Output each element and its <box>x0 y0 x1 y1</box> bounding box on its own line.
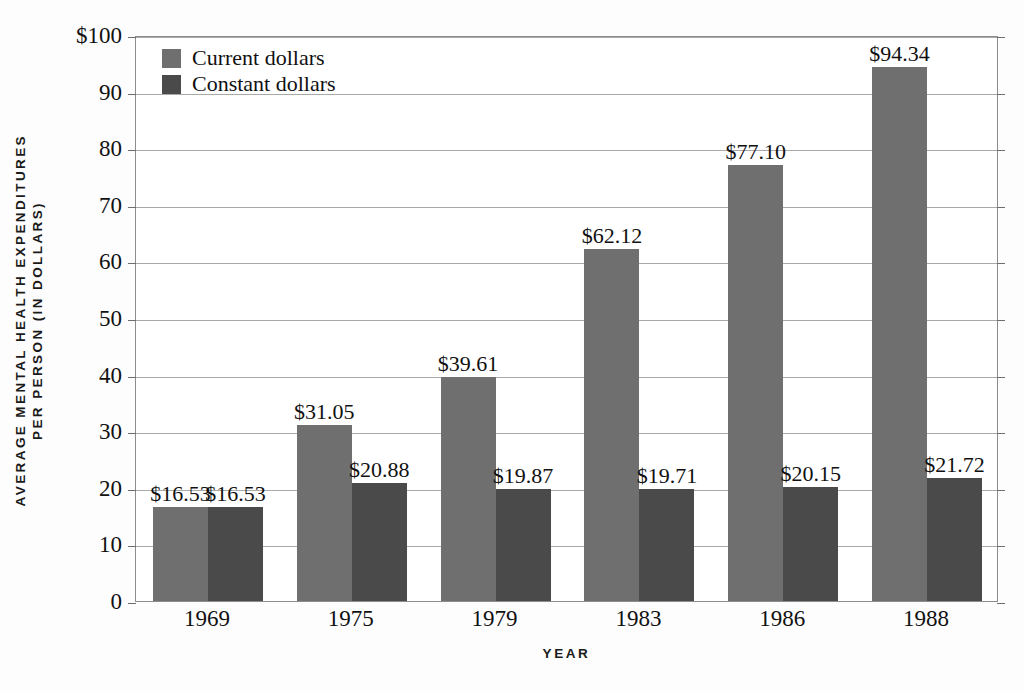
legend: Current dollars Constant dollars <box>158 43 346 101</box>
y-axis-title-line-1: AVERAGE MENTAL HEALTH EXPENDITURES <box>14 134 28 506</box>
axis-tick-mark <box>997 37 1005 38</box>
y-axis-tick-label: 20 <box>99 476 122 502</box>
axis-tick-mark <box>997 94 1005 95</box>
y-axis-tick-labels: 0102030405060708090$100 <box>52 36 130 602</box>
y-axis-tick-label: 80 <box>99 136 122 162</box>
legend-item-current-dollars: Current dollars <box>162 45 336 71</box>
bar-1988-current <box>872 67 927 601</box>
plot-area: $16.53$16.53$31.05$20.88$39.61$19.87$62.… <box>135 36 998 602</box>
x-axis-tick-label: 1986 <box>759 606 805 632</box>
bar-value-label: $16.53 <box>150 481 211 507</box>
x-axis-tick-label: 1979 <box>472 606 518 632</box>
y-axis-tick-label: 60 <box>99 249 122 275</box>
axis-tick-mark <box>997 490 1005 491</box>
axis-tick-mark <box>128 490 136 491</box>
axis-tick-mark <box>997 320 1005 321</box>
axis-tick-mark <box>128 94 136 95</box>
y-axis-tick-label: 90 <box>99 80 122 106</box>
axis-tick-mark <box>997 546 1005 547</box>
bar-value-label: $77.10 <box>726 139 787 165</box>
axis-tick-mark <box>128 433 136 434</box>
axis-tick-mark <box>128 263 136 264</box>
y-axis-tick-label: 70 <box>99 193 122 219</box>
axis-tick-mark <box>128 150 136 151</box>
bar-value-label: $19.71 <box>637 463 698 489</box>
axis-tick-mark <box>128 207 136 208</box>
y-axis-tick-label: 0 <box>111 589 123 615</box>
axis-tick-mark <box>128 546 136 547</box>
axis-tick-mark <box>997 433 1005 434</box>
bar-1975-constant <box>352 483 407 601</box>
axis-tick-mark <box>997 263 1005 264</box>
bar-1979-constant <box>496 489 551 601</box>
x-axis-tick-label: 1988 <box>903 606 949 632</box>
bar-value-label: $16.53 <box>205 481 266 507</box>
axis-tick-mark <box>128 603 136 604</box>
bar-1983-constant <box>639 489 694 601</box>
bar-value-label: $39.61 <box>438 351 499 377</box>
bar-1986-constant <box>783 487 838 601</box>
legend-swatch-icon-current-dollars <box>162 49 181 68</box>
x-axis-tick-label: 1975 <box>328 606 374 632</box>
legend-item-constant-dollars: Constant dollars <box>162 71 336 97</box>
y-axis-tick-label: 40 <box>99 363 122 389</box>
axis-tick-mark <box>128 37 136 38</box>
x-axis-tick-labels: 196919751979198319861988 <box>135 606 998 640</box>
bar-1986-current <box>728 165 783 601</box>
bar-value-label: $31.05 <box>294 399 355 425</box>
bar-1979-current <box>441 377 496 601</box>
bar-1988-constant <box>927 478 982 601</box>
bar-value-label: $62.12 <box>582 223 643 249</box>
bar-value-label: $20.15 <box>781 461 842 487</box>
bar-1983-current <box>584 249 639 601</box>
legend-label-constant-dollars: Constant dollars <box>192 73 336 95</box>
y-axis-title-line-2: PER PERSON (IN DOLLARS) <box>31 201 45 440</box>
bar-value-label: $19.87 <box>493 463 554 489</box>
legend-label-current-dollars: Current dollars <box>192 47 325 69</box>
axis-tick-mark <box>997 603 1005 604</box>
bar-value-label: $94.34 <box>869 41 930 67</box>
y-axis-tick-label: 50 <box>99 306 122 332</box>
y-axis-title: AVERAGE MENTAL HEALTH EXPENDITURES PER P… <box>0 0 58 640</box>
x-axis-title: YEAR <box>135 646 998 661</box>
chart-page: AVERAGE MENTAL HEALTH EXPENDITURES PER P… <box>0 0 1024 692</box>
bars-layer: $16.53$16.53$31.05$20.88$39.61$19.87$62.… <box>136 37 997 601</box>
bar-1969-current <box>153 507 208 601</box>
legend-swatch-icon-constant-dollars <box>162 75 181 94</box>
axis-tick-mark <box>997 150 1005 151</box>
axis-tick-mark <box>128 377 136 378</box>
y-axis-tick-label: $100 <box>76 23 122 49</box>
bar-value-label: $20.88 <box>349 457 410 483</box>
axis-tick-mark <box>997 377 1005 378</box>
y-axis-tick-label: 30 <box>99 419 122 445</box>
x-axis-tick-label: 1983 <box>615 606 661 632</box>
bar-1969-constant <box>208 507 263 601</box>
x-axis-tick-label: 1969 <box>184 606 230 632</box>
y-axis-tick-label: 10 <box>99 532 122 558</box>
bar-value-label: $21.72 <box>924 452 985 478</box>
axis-tick-mark <box>128 320 136 321</box>
bar-1975-current <box>297 425 352 601</box>
axis-tick-mark <box>997 207 1005 208</box>
